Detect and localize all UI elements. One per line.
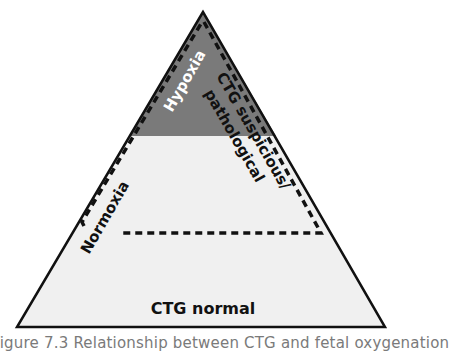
ctg-normal-label: CTG normal — [151, 299, 256, 318]
figure-caption: Figure 7.3 Relationship between CTG and … — [0, 334, 449, 352]
